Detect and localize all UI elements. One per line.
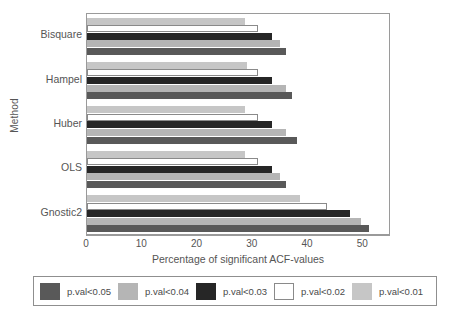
bar-group <box>87 106 389 143</box>
x-axis-line <box>86 235 390 236</box>
y-axis-category-label: Gnostic2 <box>6 206 82 218</box>
x-axis-tick-label: 50 <box>357 238 368 249</box>
bar-group <box>87 195 389 232</box>
bar-group <box>87 62 389 99</box>
y-axis-category-label: OLS <box>6 161 82 173</box>
bar[interactable] <box>87 203 327 210</box>
bar[interactable] <box>87 69 258 76</box>
bar[interactable] <box>87 218 361 225</box>
legend-swatch <box>352 283 372 300</box>
bar[interactable] <box>87 181 286 188</box>
bar[interactable] <box>87 166 272 173</box>
bar[interactable] <box>87 18 245 25</box>
y-axis-category-label: Huber <box>6 117 82 129</box>
x-axis-title: Percentage of significant ACF-values <box>86 253 390 265</box>
plot-area <box>86 13 390 235</box>
bar[interactable] <box>87 158 258 165</box>
bar[interactable] <box>87 225 369 232</box>
bar[interactable] <box>87 129 286 136</box>
legend-swatch <box>274 283 294 300</box>
bar-group <box>87 18 389 55</box>
bar[interactable] <box>87 48 286 55</box>
bar-group <box>87 151 389 188</box>
bar[interactable] <box>87 77 272 84</box>
bar[interactable] <box>87 151 245 158</box>
legend-label: p.val<0.05 <box>67 286 111 297</box>
y-axis-category-labels: BisquareHampelHuberOLSGnostic2 <box>0 0 82 318</box>
bar-chart-figure: Method BisquareHampelHuberOLSGnostic2 01… <box>0 0 467 318</box>
legend-item[interactable]: p.val<0.01 <box>352 283 430 300</box>
y-axis-category-label: Bisquare <box>6 28 82 40</box>
y-axis-category-label: Hampel <box>6 73 82 85</box>
legend-label: p.val<0.01 <box>379 286 423 297</box>
bar[interactable] <box>87 195 300 202</box>
legend-label: p.val<0.02 <box>301 286 345 297</box>
legend-item[interactable]: p.val<0.03 <box>196 283 274 300</box>
x-axis-tick-label: 0 <box>83 238 89 249</box>
x-axis-tick-label: 30 <box>246 238 257 249</box>
x-axis-tick-label: 20 <box>191 238 202 249</box>
bar[interactable] <box>87 85 286 92</box>
legend-swatch <box>40 283 60 300</box>
legend-swatch <box>118 283 138 300</box>
legend-item[interactable]: p.val<0.04 <box>118 283 196 300</box>
x-axis-tick-label: 10 <box>136 238 147 249</box>
bar[interactable] <box>87 173 280 180</box>
bar[interactable] <box>87 137 297 144</box>
bar[interactable] <box>87 114 258 121</box>
legend: p.val<0.05p.val<0.04p.val<0.03p.val<0.02… <box>33 276 437 306</box>
legend-swatch <box>196 283 216 300</box>
bar[interactable] <box>87 25 258 32</box>
bar[interactable] <box>87 92 292 99</box>
bar[interactable] <box>87 106 245 113</box>
legend-item[interactable]: p.val<0.02 <box>274 283 352 300</box>
legend-label: p.val<0.03 <box>223 286 267 297</box>
legend-item[interactable]: p.val<0.05 <box>40 283 118 300</box>
bar[interactable] <box>87 62 247 69</box>
bar[interactable] <box>87 121 272 128</box>
bar[interactable] <box>87 210 350 217</box>
x-axis-tick-label: 40 <box>302 238 313 249</box>
bar[interactable] <box>87 33 272 40</box>
bar[interactable] <box>87 40 280 47</box>
legend-label: p.val<0.04 <box>145 286 189 297</box>
